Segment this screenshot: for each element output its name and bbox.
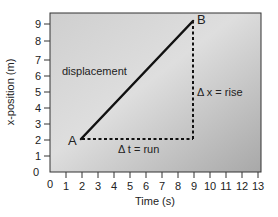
x-tick-3: 3 [95, 180, 101, 192]
y-tick-labels: 0 1 2 3 4 5 6 7 8 9 [33, 18, 41, 178]
y-tick-1: 1 [35, 150, 41, 162]
x-tick-4: 4 [111, 180, 117, 192]
x-tick-2: 2 [79, 180, 85, 192]
x-tick-labels: 0 1 2 3 4 5 6 7 8 9 10 11 12 13 [47, 178, 264, 192]
y-tick-3: 3 [35, 118, 41, 130]
x-tick-12: 12 [236, 180, 248, 192]
x-tick-10: 10 [204, 180, 216, 192]
y-tick-2: 2 [35, 134, 41, 146]
y-tick-5: 5 [35, 86, 41, 98]
y-tick-6: 6 [35, 70, 41, 82]
rise-label: Δ x = rise [197, 86, 243, 98]
x-axis [66, 172, 258, 178]
position-time-chart: 0 1 2 3 4 5 6 7 8 9 0 1 2 3 4 5 6 7 8 9 [0, 0, 278, 217]
point-a-label: A [68, 133, 77, 148]
x-tick-7: 7 [159, 180, 165, 192]
y-tick-8: 8 [35, 35, 41, 47]
x-tick-6: 6 [143, 180, 149, 192]
displacement-label: displacement [62, 65, 127, 77]
x-axis-title: Time (s) [135, 195, 175, 207]
run-label: Δ t = run [118, 143, 159, 155]
y-tick-4: 4 [35, 102, 41, 114]
y-axis-title: x-position (m) [4, 59, 16, 126]
x-tick-9: 9 [191, 180, 197, 192]
x-tick-0: 0 [47, 178, 53, 190]
y-tick-9: 9 [35, 18, 41, 30]
x-tick-5: 5 [127, 180, 133, 192]
x-tick-8: 8 [175, 180, 181, 192]
point-b-label: B [197, 12, 206, 27]
y-axis [44, 24, 50, 156]
x-tick-13: 13 [252, 180, 264, 192]
x-tick-1: 1 [63, 180, 69, 192]
y-tick-7: 7 [35, 54, 41, 66]
x-tick-11: 11 [220, 180, 231, 192]
y-tick-0: 0 [33, 166, 39, 178]
